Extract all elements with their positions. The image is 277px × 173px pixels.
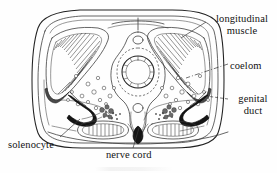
muscle-striations-left [54,33,100,94]
coelom-leader [186,64,228,78]
label-nerve-cord: nerve cord [106,149,152,161]
scan-artifact [95,167,173,171]
label-solenocyte: solenocyte [8,139,54,151]
figure-root: longitudinal muscle coelom genital duct … [0,0,277,173]
label-genital-duct: genital duct [230,93,276,116]
label-genital-duct-line2: duct [244,105,262,116]
coelomic-cells [67,74,210,109]
longitudinal-muscle-right [147,27,211,103]
label-genital-duct-line1: genital [238,93,267,104]
label-coelom: coelom [230,60,262,72]
solenocyte-leader [60,119,80,137]
longitudinal-muscle-leader [181,22,206,38]
label-longitudinal-muscle: longitudinal muscle [208,13,276,36]
label-longitudinal-muscle-line2: muscle [227,25,257,36]
label-longitudinal-muscle-line1: longitudinal [216,13,268,24]
longitudinal-muscle-left [45,27,109,103]
